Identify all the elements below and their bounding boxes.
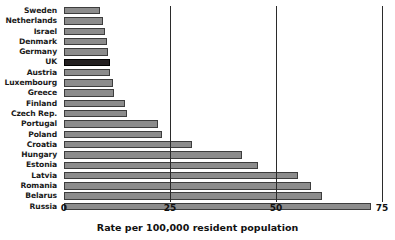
gridline — [170, 6, 171, 202]
gridline — [382, 6, 383, 202]
tick-label: 25 — [164, 203, 177, 213]
bar — [64, 100, 125, 107]
bar-chart: SwedenNetherlandsIsraelDenmarkGermanyUKA… — [0, 0, 395, 240]
gridline — [276, 6, 277, 202]
bar — [64, 7, 100, 14]
category-label: Germany — [0, 47, 60, 57]
category-label: Luxembourg — [0, 78, 60, 88]
bar — [64, 120, 158, 127]
bar-row — [64, 37, 382, 47]
bar-row — [64, 57, 382, 67]
plot-area — [64, 6, 382, 202]
bar-row — [64, 27, 382, 37]
category-label: Portugal — [0, 119, 60, 129]
category-axis-labels: SwedenNetherlandsIsraelDenmarkGermanyUKA… — [0, 6, 60, 202]
bar — [64, 141, 192, 148]
bar — [64, 89, 114, 96]
bar-row — [64, 78, 382, 88]
bar-row — [64, 160, 382, 170]
bar — [64, 38, 107, 45]
category-label: Greece — [0, 88, 60, 98]
bar-row — [64, 171, 382, 181]
tick-label: 0 — [61, 203, 67, 213]
bar-row — [64, 109, 382, 119]
bar — [64, 131, 162, 138]
category-label: Netherlands — [0, 16, 60, 26]
bar — [64, 17, 103, 24]
bar-row — [64, 191, 382, 201]
tick-label: 75 — [376, 203, 389, 213]
category-label: Austria — [0, 68, 60, 78]
bar-row — [64, 88, 382, 98]
category-label: UK — [0, 57, 60, 67]
bars-layer — [64, 6, 382, 212]
bar — [64, 28, 105, 35]
bar-row — [64, 47, 382, 57]
category-label: Romania — [0, 181, 60, 191]
bar — [64, 151, 242, 158]
bar-row — [64, 6, 382, 16]
bar — [64, 162, 258, 169]
x-axis-title: Rate per 100,000 resident population — [0, 222, 395, 233]
category-label: Israel — [0, 27, 60, 37]
category-label: Latvia — [0, 171, 60, 181]
category-label: Poland — [0, 130, 60, 140]
bar-row — [64, 140, 382, 150]
category-label: Croatia — [0, 140, 60, 150]
category-label: Denmark — [0, 37, 60, 47]
value-axis-ticks: 0255075 — [0, 203, 395, 217]
bar-row — [64, 99, 382, 109]
bar-row — [64, 16, 382, 26]
bar — [64, 182, 311, 189]
bar — [64, 172, 298, 179]
bar-row — [64, 130, 382, 140]
category-label: Belarus — [0, 191, 60, 201]
bar — [64, 48, 108, 55]
tick-label: 50 — [270, 203, 283, 213]
category-label: Finland — [0, 99, 60, 109]
bar — [64, 59, 110, 66]
bar-row — [64, 150, 382, 160]
category-label: Hungary — [0, 150, 60, 160]
bar-row — [64, 119, 382, 129]
bar — [64, 110, 127, 117]
bar — [64, 69, 110, 76]
category-label: Czech Rep. — [0, 109, 60, 119]
category-label: Estonia — [0, 160, 60, 170]
bar-row — [64, 68, 382, 78]
bar — [64, 192, 322, 199]
bar-row — [64, 181, 382, 191]
category-label: Sweden — [0, 6, 60, 16]
bar — [64, 79, 113, 86]
